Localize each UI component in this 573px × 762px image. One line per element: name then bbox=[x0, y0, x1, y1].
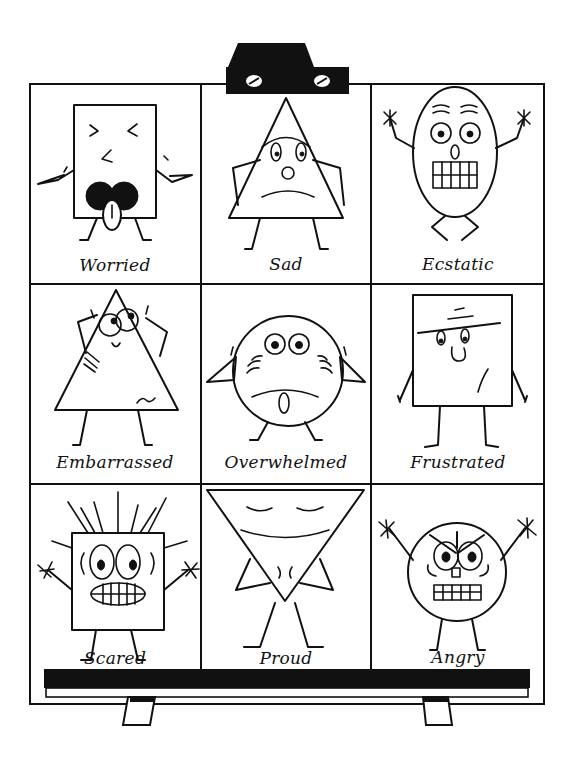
screw-icon bbox=[246, 75, 262, 87]
label-ecstatic: Ecstatic bbox=[373, 254, 543, 274]
board-clip bbox=[226, 43, 349, 94]
label-embarrassed: Embarrassed bbox=[30, 452, 200, 472]
label-scared: Scared bbox=[30, 648, 200, 668]
label-sad: Sad bbox=[201, 254, 371, 274]
label-angry: Angry bbox=[373, 647, 543, 667]
label-frustrated: Frustrated bbox=[373, 452, 543, 472]
label-overwhelmed: Overwhelmed bbox=[201, 452, 371, 472]
label-proud: Proud bbox=[201, 648, 371, 668]
board-tray bbox=[44, 669, 530, 697]
screw-icon bbox=[314, 75, 330, 87]
label-worried: Worried bbox=[30, 255, 200, 275]
